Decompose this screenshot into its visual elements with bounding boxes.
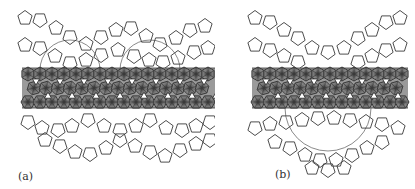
panel-b: (b) [230, 0, 415, 189]
panel-label-a: (a) [18, 170, 33, 183]
panel-label-b: (b) [275, 168, 291, 181]
crystal-structure-diagram-a [0, 0, 215, 189]
panel-a: (a) [0, 0, 215, 189]
crystal-structure-diagram-b [230, 0, 415, 189]
